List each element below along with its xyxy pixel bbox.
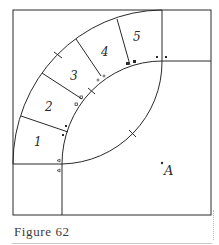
divider-1-2 xyxy=(21,116,68,132)
page-rule xyxy=(12,243,212,244)
outer-square xyxy=(13,10,211,215)
section-label-2: 2 xyxy=(44,100,53,114)
quilt-arc-diagram: 1 2 3 4 5 A xyxy=(0,0,219,245)
mark-triangle xyxy=(57,169,60,172)
page-edge-marks xyxy=(213,210,216,240)
mark-triangle xyxy=(57,159,60,162)
point-a-label: A xyxy=(163,163,173,178)
figure-caption: Figure 62 xyxy=(14,224,70,240)
point-a-dot xyxy=(161,162,163,164)
mark-dot xyxy=(65,125,67,127)
section-label-3: 3 xyxy=(70,69,78,83)
mark-square xyxy=(133,60,136,63)
mark-square xyxy=(126,62,129,65)
divider-4-5 xyxy=(117,19,130,65)
mark-dot xyxy=(165,56,167,58)
section-label-4: 4 xyxy=(100,45,109,59)
section-label-1: 1 xyxy=(34,135,42,149)
mark-circle xyxy=(103,75,105,77)
mark-hollow-square xyxy=(75,103,78,106)
mark-dot xyxy=(156,56,158,58)
section-label-5: 5 xyxy=(133,30,141,44)
mark-dot xyxy=(62,134,64,136)
mark-circle xyxy=(97,79,99,81)
divider-3-4 xyxy=(76,39,101,76)
